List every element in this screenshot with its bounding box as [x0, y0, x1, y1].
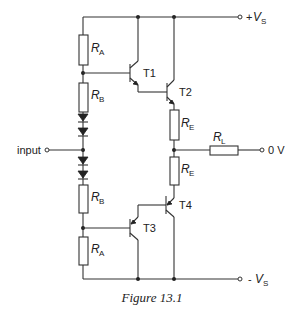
- resistor-rl: [210, 146, 238, 155]
- rb-top-subscript: B: [99, 95, 104, 104]
- transistor-t2: [167, 17, 174, 110]
- resistor-re-bottom: [170, 157, 179, 185]
- negative-supply-prefix: -: [248, 273, 252, 285]
- rl-subscript: L: [221, 137, 226, 146]
- resistor-ra-bottom: [79, 237, 88, 265]
- positive-supply-prefix: +: [246, 11, 252, 23]
- bias-chain: [78, 17, 88, 279]
- resistor-rb-bottom: [79, 185, 88, 213]
- positive-rail: [83, 15, 242, 19]
- diode-icon: [78, 171, 88, 178]
- t3-label: T3: [143, 222, 156, 234]
- ground-label: 0 V: [268, 144, 285, 156]
- t4-label: T4: [179, 199, 192, 211]
- re-top-subscript: E: [189, 123, 194, 132]
- output-stage: [170, 110, 179, 198]
- re-bottom-subscript: E: [189, 169, 194, 178]
- negative-supply-subscript: S: [263, 279, 268, 288]
- input-label: input: [17, 144, 41, 156]
- ra-bottom-subscript: A: [99, 249, 105, 258]
- t1-label: T1: [143, 67, 156, 79]
- negative-rail: [83, 277, 242, 281]
- ground-terminal: [260, 148, 264, 152]
- circuit-diagram: + V S input R A R B R B R A: [0, 0, 294, 315]
- diode-icon: [78, 157, 88, 164]
- resistor-rb-top: [79, 83, 88, 112]
- positive-supply-subscript: S: [261, 17, 266, 26]
- resistor-ra-top: [79, 35, 88, 65]
- diode-icon: [78, 128, 88, 135]
- rb-bottom-subscript: B: [99, 197, 104, 206]
- diode-icon: [78, 114, 88, 121]
- ra-top-subscript: A: [99, 48, 105, 57]
- transistor-t4: [138, 196, 174, 279]
- resistor-re-top: [170, 110, 179, 140]
- t2-label: T2: [179, 86, 192, 98]
- input-terminal: [45, 148, 49, 152]
- figure-caption: Figure 13.1: [121, 290, 183, 305]
- negative-supply-terminal: [238, 277, 242, 281]
- positive-supply-terminal: [238, 15, 242, 19]
